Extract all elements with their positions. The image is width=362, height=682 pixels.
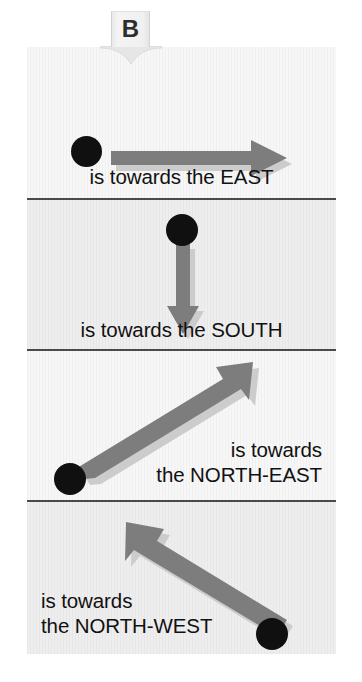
caption-east: is towards the EAST <box>27 164 336 189</box>
panel-label-tab-b: B <box>111 11 150 47</box>
caption-north-west: is towards the NORTH-WEST <box>41 588 321 638</box>
panel-east: is towards the EAST <box>27 47 336 199</box>
panel-label-letter: B <box>122 17 139 41</box>
panel-north-west: is towards the NORTH-WEST <box>27 502 336 654</box>
caption-south: is towards the SOUTH <box>27 317 336 342</box>
panel-south: is towards the SOUTH <box>27 200 336 350</box>
divider-1 <box>27 198 336 200</box>
caption-north-east: is towards the NORTH-EAST <box>27 437 322 487</box>
panel-north-east: is towards the NORTH-EAST <box>27 351 336 501</box>
marker-dot-east <box>71 136 102 167</box>
direction-figure: B is towards the EAST <box>0 0 362 682</box>
marker-dot-south <box>166 214 198 246</box>
divider-3 <box>27 500 336 502</box>
divider-2 <box>27 349 336 351</box>
panels-card: is towards the EAST is towards the SOUTH <box>27 47 336 654</box>
tab-flare-icon <box>100 46 162 66</box>
